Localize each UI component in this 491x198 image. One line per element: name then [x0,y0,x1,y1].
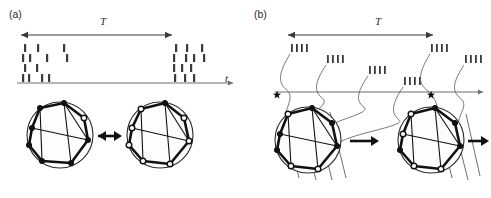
burst-spike-tick [291,44,293,52]
figure-canvas: (a) T t (b) T [0,0,491,198]
network-node-open [288,163,294,169]
network-node-open [411,163,417,169]
network-node-open [181,115,187,121]
spike-tick [174,74,176,82]
interval-arrow-T-a-head-left [21,32,28,39]
spike-tick [193,54,195,62]
network-node-filled [397,147,402,152]
connector-through-network [466,114,480,176]
burst-spike-tick [446,44,448,52]
network-node-filled [277,131,282,136]
network-state-right [126,100,193,168]
burst-spike-tick [436,44,438,52]
state-transition-arrow-b-1-head-right [371,136,379,146]
network-node-filled [274,147,279,152]
spike-tick [185,54,187,62]
burst-spike-tick [431,44,433,52]
burst-spike-tick [465,55,467,63]
spike-tick [184,74,186,82]
network-node-open [315,166,321,172]
network-node-open [408,111,414,117]
network-node-filled [85,137,90,142]
burst-spike-tick [301,44,303,52]
network-node-filled [334,143,339,148]
time-axis-b-arrowhead [478,90,483,95]
network-node-filled [37,105,42,110]
burst-spike-tick [332,55,334,63]
spike-tick [173,54,175,62]
burst-spike-tick [480,55,482,63]
spike-tick [193,74,195,82]
spike-tick [63,44,65,52]
network-node-open [138,106,144,112]
burst-spike-tick [369,66,371,74]
network-node-filled [39,158,44,163]
spike-tick [41,74,43,82]
network-node-filled [26,142,31,147]
burst-spike-tick [342,55,344,63]
burst-spike-tick [475,55,477,63]
network-node-filled [452,120,457,125]
burst-spike-tick [409,77,411,85]
spike-tick [66,54,68,62]
burst-spike-tick [384,66,386,74]
network-node-filled [432,105,437,110]
spike-tick [22,74,24,82]
burst-spike-tick [337,55,339,63]
network-node-open [167,161,173,167]
interval-arrow-T-a-head-right [165,32,172,39]
network-boundary-circle [127,102,193,168]
network-node-open [126,142,132,148]
time-axis-a-arrowhead [228,81,233,86]
network-node-filled [329,120,334,125]
burst-spike-tick [379,66,381,74]
network-node-open [140,158,146,164]
spike-tick [186,44,188,52]
spike-tick [22,54,24,62]
network-node-open [285,111,291,117]
network-node-filled [309,105,314,110]
burst-spike-tick [327,55,329,63]
state-transition-arrow-b-2-head-right [481,136,489,146]
burst-spike-tick [414,77,416,85]
network-node-filled [68,160,73,165]
spike-tick [24,44,26,52]
figure-vector-art [0,0,491,198]
network-node-open [400,131,406,137]
network-node-filled [162,100,167,105]
spike-tick [48,74,50,82]
network-node-open [81,115,87,121]
spike-tick [190,64,192,72]
burst-spike-tick [441,44,443,52]
spike-tick [36,64,38,72]
network-node-open [186,138,192,144]
spike-tick [181,64,183,72]
burst-spike-tick [470,55,472,63]
spike-tick [28,74,30,82]
spike-tick [173,64,175,72]
interval-arrow-T-b-head-left [288,32,295,39]
network-node-filled [457,143,462,148]
network-state-left [26,100,93,168]
state-transition-arrow-a-head-left [98,131,106,141]
spike-tick [203,54,205,62]
burst-spike-tick [404,77,406,85]
interval-arrow-T-b-head-right [426,32,433,39]
burst-spike-tick [306,44,308,52]
network-node-filled [61,100,66,105]
network-node-filled [29,125,34,130]
burst-spike-tick [296,44,298,52]
spike-tick [37,44,39,52]
spike-tick [201,44,203,52]
spike-tick [46,54,48,62]
state-transition-arrow-a-head-right [114,131,122,141]
burst-spike-tick [374,66,376,74]
network-state-b-right [397,105,464,173]
network-node-open [438,166,444,172]
spike-tick [29,54,31,62]
spike-tick [24,64,26,72]
network-node-open [129,125,135,131]
spike-tick [175,44,177,52]
network-boundary-circle [27,102,93,168]
